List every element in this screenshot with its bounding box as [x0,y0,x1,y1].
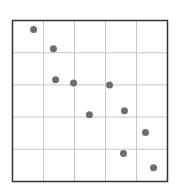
data-point [86,111,93,118]
data-point [121,107,128,114]
scatter-plot [0,0,181,190]
data-point [52,76,59,83]
data-point [30,26,37,33]
data-point [50,45,57,52]
data-point [120,150,127,157]
plot-frame [13,21,168,182]
data-point [150,164,157,171]
data-point [142,129,149,136]
data-point [70,79,77,86]
data-point [106,81,113,88]
grid-lines [13,21,168,182]
